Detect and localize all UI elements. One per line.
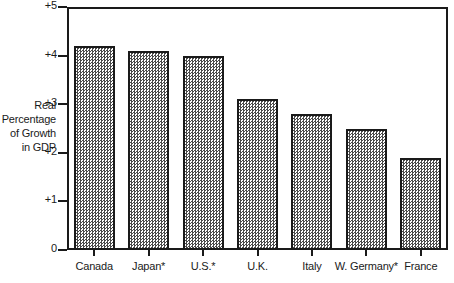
y-axis-tick-label: +1 bbox=[45, 193, 57, 205]
x-axis-tick-mark bbox=[420, 250, 422, 256]
x-axis-label-canada: Canada bbox=[76, 260, 113, 272]
bar-italy bbox=[291, 114, 332, 250]
x-axis-label-w-germany: W. Germany* bbox=[335, 260, 398, 272]
y-axis-tick-mark bbox=[58, 249, 67, 251]
y-axis-tick-label: +5 bbox=[45, 0, 57, 11]
bar-u-s bbox=[183, 56, 224, 250]
y-axis-tick-label: +4 bbox=[45, 48, 57, 60]
bar-canada bbox=[74, 46, 115, 250]
y-axis-title: Real Percentage of Growth in GDP bbox=[0, 98, 56, 154]
x-axis-label-france: France bbox=[404, 260, 437, 272]
bar-chart: 0+1+2+3+4+5 Real Percentage of Growth in… bbox=[0, 0, 454, 283]
y-axis-title-line-4: in GDP bbox=[0, 140, 56, 154]
bar-japan bbox=[128, 51, 169, 250]
x-axis-label-u-s: U.S.* bbox=[191, 260, 216, 272]
bars-layer bbox=[67, 7, 448, 250]
y-axis-tick-mark bbox=[58, 6, 67, 8]
x-axis-tick-mark bbox=[311, 250, 313, 256]
x-axis-tick-mark bbox=[365, 250, 367, 256]
bar-w-germany bbox=[346, 129, 387, 251]
x-axis-label-u-k: U.K. bbox=[247, 260, 268, 272]
y-axis-title-line-2: Percentage bbox=[0, 112, 56, 126]
y-axis-tick-mark bbox=[58, 152, 67, 154]
y-axis-title-line-1: Real bbox=[0, 98, 56, 112]
y-axis-title-line-3: of Growth bbox=[0, 126, 56, 140]
x-axis-tick-mark bbox=[148, 250, 150, 256]
bar-france bbox=[400, 158, 441, 250]
x-axis-label-italy: Italy bbox=[302, 260, 321, 272]
y-axis-tick-mark bbox=[58, 55, 67, 57]
y-axis-tick-label: 0 bbox=[51, 242, 57, 254]
x-axis-label-japan: Japan* bbox=[132, 260, 165, 272]
bar-u-k bbox=[237, 99, 278, 250]
y-axis-tick-mark bbox=[58, 200, 67, 202]
x-axis-tick-mark bbox=[202, 250, 204, 256]
x-axis-tick-mark bbox=[93, 250, 95, 256]
x-axis-tick-mark bbox=[257, 250, 259, 256]
y-axis-tick-mark bbox=[58, 103, 67, 105]
